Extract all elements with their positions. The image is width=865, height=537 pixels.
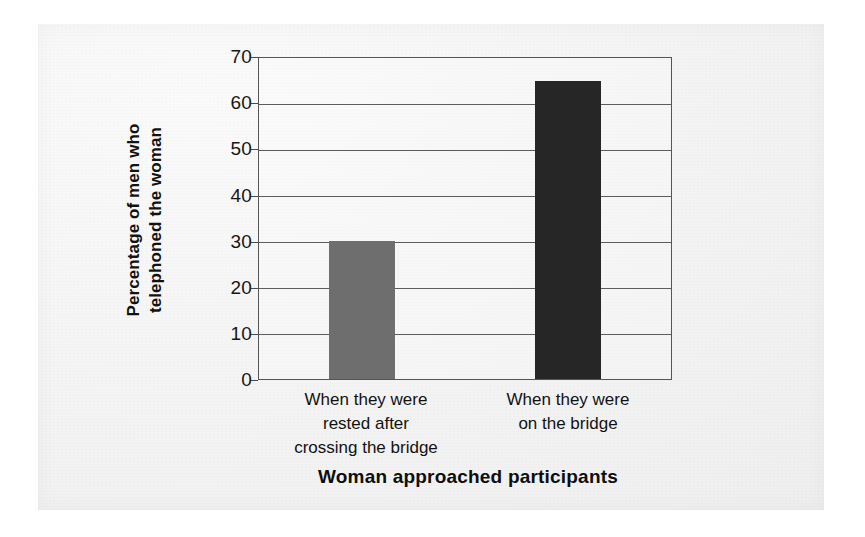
y-tick-mark-60	[251, 103, 258, 104]
category-0-line-1: When they were	[268, 388, 464, 412]
bar-on-the-bridge[interactable]	[535, 81, 601, 379]
gridline-20	[259, 288, 671, 289]
x-axis-title: Woman approached participants	[248, 466, 688, 488]
y-axis-title-line-1: Percentage of men who	[123, 124, 145, 317]
x-axis-category-label-0: When they were rested after crossing the…	[268, 388, 464, 460]
y-tick-mark-30	[251, 242, 258, 243]
gridline-40	[259, 196, 671, 197]
y-tick-label-70: 70	[210, 46, 252, 68]
y-tick-label-40: 40	[210, 185, 252, 207]
category-1-line-1: When they were	[470, 388, 666, 412]
y-tick-mark-70	[251, 57, 258, 58]
y-axis-title: Percentage of men who telephoned the wom…	[122, 70, 168, 370]
x-axis-category-label-1: When they were on the bridge	[470, 388, 666, 436]
category-0-line-2: rested after	[268, 412, 464, 436]
y-tick-label-60: 60	[210, 92, 252, 114]
y-axis-tick-labels: 70 60 50 40 30 20 10 0	[196, 0, 252, 537]
y-tick-label-30: 30	[210, 231, 252, 253]
y-axis-title-line-2: telephoned the woman	[145, 127, 167, 313]
gridline-10	[259, 334, 671, 335]
category-0-line-3: crossing the bridge	[268, 436, 464, 460]
screenshot-page: Percentage of men who telephoned the wom…	[0, 0, 865, 537]
y-tick-mark-0	[251, 380, 258, 381]
y-tick-label-0: 0	[210, 369, 252, 391]
y-tick-label-10: 10	[210, 323, 252, 345]
bar-chart: Percentage of men who telephoned the wom…	[0, 0, 865, 537]
y-tick-mark-10	[251, 334, 258, 335]
gridline-60	[259, 104, 671, 105]
y-tick-mark-20	[251, 288, 258, 289]
y-tick-label-20: 20	[210, 277, 252, 299]
bar-rested-after-crossing[interactable]	[329, 241, 395, 379]
y-tick-mark-50	[251, 149, 258, 150]
gridline-50	[259, 150, 671, 151]
y-tick-label-50: 50	[210, 138, 252, 160]
plot-area	[258, 57, 672, 380]
gridline-30	[259, 242, 671, 243]
category-1-line-2: on the bridge	[470, 412, 666, 436]
y-tick-mark-40	[251, 196, 258, 197]
